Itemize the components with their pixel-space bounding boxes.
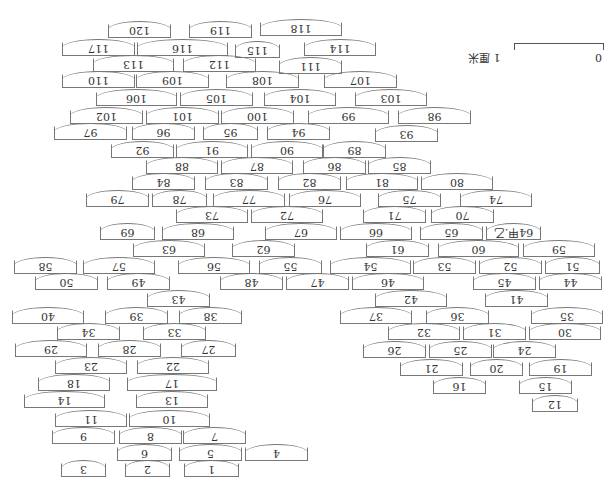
stall-box: 103 — [355, 92, 427, 106]
stall-box: 113 — [93, 58, 174, 72]
stall-number-label: 35 — [532, 311, 602, 323]
stall-box: 65 — [420, 226, 483, 240]
stall-box: 80 — [421, 176, 493, 190]
stall-number-label: 111 — [280, 61, 341, 73]
stall-box: 21 — [400, 362, 463, 376]
stall-number-label: 119 — [190, 25, 251, 37]
stall-number-label: 108 — [227, 75, 298, 87]
stall-number-label: 45 — [474, 277, 535, 289]
stall-number-label: 37 — [341, 311, 411, 323]
stall-box: 75 — [378, 193, 441, 207]
stall-box: 23 — [55, 360, 127, 374]
stall-box: 112 — [183, 58, 256, 72]
stall-box: 95 — [203, 126, 258, 140]
stall-number-label: 67 — [266, 227, 336, 239]
stall-number-label: 31 — [464, 327, 525, 339]
stall-box: 31 — [463, 326, 526, 340]
stall-box: 120 — [108, 24, 171, 38]
stall-box: 110 — [62, 74, 135, 88]
stall-number-label: 50 — [36, 277, 97, 289]
stall-number-label: 97 — [55, 127, 126, 139]
stall-box: 72 — [251, 209, 323, 223]
stall-number-label: 68 — [163, 227, 233, 239]
stall-box: 79 — [86, 193, 149, 207]
stall-number-label: 62 — [233, 244, 294, 256]
stall-number-label: 1 — [185, 464, 238, 476]
stall-number-label: 107 — [325, 75, 396, 87]
stall-number-label: 18 — [39, 378, 109, 390]
stall-number-label: 11 — [56, 414, 126, 426]
stall-box: 20 — [470, 362, 523, 376]
stall-number-label: 96 — [133, 127, 194, 139]
stall-box: 89 — [323, 144, 386, 158]
stall-box: 88 — [146, 160, 218, 174]
stall-layout-diagram: 1201191181171161151141131121111101091081… — [0, 0, 609, 479]
stall-number-label: 114 — [305, 43, 375, 55]
stall-number-label: 59 — [524, 244, 594, 256]
stall-number-label: 117 — [63, 43, 134, 55]
stall-box: 77 — [213, 193, 285, 207]
stall-number-label: 95 — [204, 127, 257, 139]
stall-number-label: 26 — [364, 345, 425, 357]
stall-number-label: 104 — [265, 93, 335, 105]
stall-number-label: 30 — [530, 327, 600, 339]
stall-number-label: 101 — [147, 111, 218, 123]
stall-number-label: 79 — [87, 194, 148, 206]
stall-box: 94 — [267, 126, 330, 140]
stall-number-label: 73 — [177, 210, 247, 222]
stall-number-label: 92 — [112, 145, 173, 157]
scale-bar — [514, 43, 604, 50]
stall-number-label: 75 — [379, 194, 440, 206]
stall-number-label: 87 — [222, 161, 292, 173]
stall-number-label: 98 — [399, 111, 470, 123]
stall-box: 78 — [152, 193, 207, 207]
stall-number-label: 49 — [108, 277, 169, 289]
stall-box: 105 — [180, 92, 253, 106]
stall-box: 109 — [136, 74, 209, 88]
stall-box: 86 — [303, 160, 366, 174]
stall-box: 69 — [100, 226, 155, 240]
stall-box: 71 — [363, 209, 426, 223]
stall-box: 5 — [179, 447, 242, 461]
stall-number-label: 61 — [367, 244, 428, 256]
stall-box: 97 — [54, 126, 127, 140]
stall-number-label: 65 — [421, 227, 482, 239]
stall-box: 117 — [62, 42, 135, 56]
stall-number-label: 16 — [434, 381, 485, 393]
stall-box: 101 — [146, 110, 219, 124]
stall-box: 29 — [15, 343, 87, 357]
stall-box: 32 — [388, 326, 460, 340]
stall-box: 6 — [117, 447, 172, 461]
stall-box: 62 — [232, 243, 295, 257]
stall-number-label: 5 — [180, 448, 241, 460]
stall-box: 76 — [289, 193, 361, 207]
stall-number-label: 42 — [376, 294, 446, 306]
stall-box: 102 — [70, 110, 143, 124]
stall-number-label: 110 — [63, 75, 134, 87]
stall-box: 81 — [346, 176, 418, 190]
stall-box: 11 — [55, 413, 127, 427]
stall-number-label: 103 — [356, 93, 426, 105]
stall-box: 67 — [265, 226, 337, 240]
stall-number-label: 83 — [206, 177, 267, 189]
stall-box: 111 — [279, 60, 342, 74]
stall-box: 49 — [107, 276, 170, 290]
stall-box: 2 — [125, 463, 170, 477]
stall-box: 44 — [539, 276, 602, 290]
stall-number-label: 116 — [138, 43, 227, 55]
stall-number-label: 25 — [430, 345, 491, 357]
stall-box: 40 — [12, 310, 84, 324]
stall-number-label: 90 — [252, 145, 322, 157]
stall-number-label: 10 — [130, 414, 209, 426]
stall-box: 1 — [184, 463, 239, 477]
stall-box: 108 — [226, 74, 299, 88]
stall-box: 7 — [183, 430, 246, 444]
stall-number-label: 19 — [530, 363, 591, 375]
scale-zero-label: 0 — [595, 51, 602, 64]
stall-number-label: 52 — [480, 261, 541, 273]
stall-box: 57 — [83, 260, 155, 274]
stall-number-label: 80 — [422, 177, 492, 189]
stall-number-label: 29 — [16, 344, 86, 356]
stall-number-label: 2 — [126, 464, 169, 476]
stall-number-label: 89 — [324, 145, 385, 157]
